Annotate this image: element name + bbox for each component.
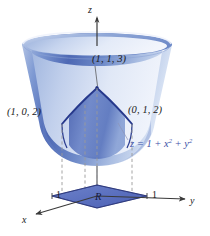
equation-part-2: + y — [172, 138, 189, 149]
label-x-tick: 1 — [56, 190, 61, 200]
figure-canvas — [0, 0, 210, 236]
label-surface-equation: z = 1 + x2 + y2 — [130, 139, 192, 150]
label-x-axis: x — [22, 215, 26, 225]
equation-exponent-2: 2 — [189, 137, 192, 144]
equation-part-1: z = 1 + x — [130, 138, 169, 149]
label-y-tick: 1 — [152, 190, 157, 200]
figure-container: (1, 1, 3) (1, 0, 2) (0, 1, 2) z = 1 + x2… — [0, 0, 210, 236]
label-y-axis: y — [190, 196, 194, 206]
label-point-y-edge: (0, 1, 2) — [128, 105, 162, 116]
label-point-apex: (1, 1, 3) — [92, 54, 126, 65]
label-z-axis: z — [88, 5, 92, 15]
label-point-x-edge: (1, 0, 2) — [7, 107, 41, 118]
label-region-R: R — [95, 192, 101, 203]
